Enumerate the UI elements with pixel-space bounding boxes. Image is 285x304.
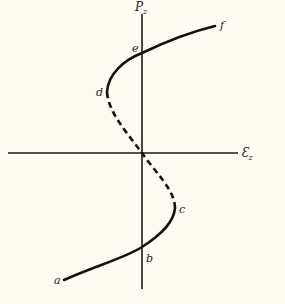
y-axis-label: Pz: [134, 0, 148, 16]
point-label-a: a: [54, 274, 61, 287]
point-label-b: b: [146, 252, 153, 265]
x-axis-label: Ɛz: [241, 146, 253, 162]
point-label-e: e: [132, 42, 139, 55]
curve-unstable-branch: [107, 92, 175, 208]
hysteresis-diagram: Pz Ɛz a b c d e f: [0, 0, 285, 304]
point-label-d: d: [96, 86, 103, 99]
point-label-f: f: [219, 19, 226, 32]
curve-upper-branch: [107, 26, 215, 92]
curve-lower-branch: [64, 208, 175, 280]
point-label-c: c: [179, 203, 185, 216]
